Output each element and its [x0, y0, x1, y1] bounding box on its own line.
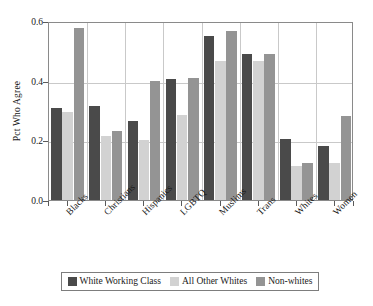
legend-label: Non-whites — [268, 276, 312, 287]
bar — [280, 139, 291, 200]
bar-chart-figure: Pct Who Agree 0.00.20.40.6 BlacksChristi… — [0, 0, 373, 306]
bar — [204, 36, 215, 200]
y-tick-label: 0.2 — [3, 136, 43, 146]
bar — [101, 136, 112, 200]
bar — [51, 108, 62, 200]
legend-label: All Other Whites — [182, 276, 247, 287]
bar — [242, 54, 253, 200]
legend-item[interactable]: Non-whites — [256, 276, 312, 287]
bar — [166, 79, 177, 200]
gridline-vertical — [202, 23, 203, 200]
y-tick-label: 0.4 — [3, 77, 43, 87]
bar — [341, 116, 352, 200]
y-tick-label: 0.0 — [3, 196, 43, 206]
legend-item[interactable]: White Working Class — [68, 276, 161, 287]
bar — [74, 28, 85, 200]
bar — [291, 166, 302, 200]
y-tick-label: 0.6 — [3, 17, 43, 27]
bar — [62, 112, 73, 200]
bar — [329, 163, 340, 200]
bar — [89, 106, 100, 200]
legend-swatch-icon — [256, 277, 265, 286]
bar — [215, 61, 226, 200]
gridline-vertical — [87, 23, 88, 200]
bar — [177, 115, 188, 200]
bar — [253, 61, 264, 200]
bar — [139, 140, 150, 200]
chart-legend: White Working ClassAll Other WhitesNon-w… — [61, 272, 319, 291]
gridline-vertical — [125, 23, 126, 200]
gridline-horizontal — [49, 83, 352, 84]
bar — [226, 31, 237, 200]
legend-swatch-icon — [170, 277, 179, 286]
bar — [150, 81, 161, 200]
plot-area — [48, 22, 353, 201]
gridline-vertical — [240, 23, 241, 200]
gridline-vertical — [316, 23, 317, 200]
legend-label: White Working Class — [80, 276, 161, 287]
legend-item[interactable]: All Other Whites — [170, 276, 247, 287]
legend-swatch-icon — [68, 277, 77, 286]
gridline-vertical — [278, 23, 279, 200]
gridline-vertical — [163, 23, 164, 200]
bar — [264, 54, 275, 200]
x-tick — [48, 201, 49, 206]
bar — [318, 146, 329, 200]
bar — [188, 78, 199, 200]
